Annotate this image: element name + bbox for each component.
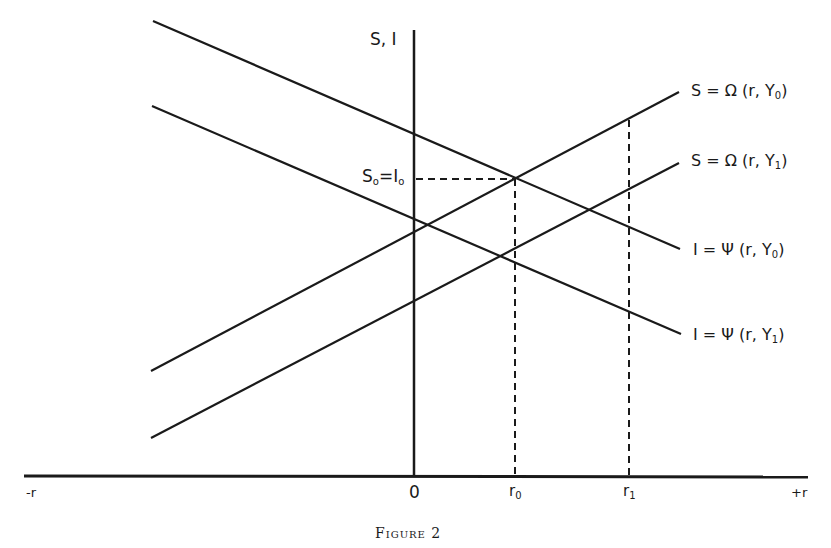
x-axis-positive-label: +r bbox=[791, 486, 807, 499]
saving-curve-y0-label: S = Ω (r, Y0) bbox=[691, 83, 787, 101]
r1-label: r1 bbox=[623, 484, 636, 501]
y-axis-label: S, I bbox=[370, 31, 397, 48]
x-axis bbox=[24, 476, 808, 477]
r0-label: r0 bbox=[509, 484, 522, 501]
origin-label: 0 bbox=[409, 484, 420, 501]
saving-curve-y1-label: S = Ω (r, Y1) bbox=[691, 153, 787, 171]
equilibrium-label: So=Io bbox=[362, 168, 404, 187]
investment-curve-y0 bbox=[153, 21, 680, 249]
x-axis-negative-label: -r bbox=[26, 486, 36, 499]
investment-curve-y0-label: I = Ψ (r, Y0) bbox=[693, 242, 784, 260]
investment-curve-y1-label: I = Ψ (r, Y1) bbox=[693, 327, 784, 345]
figure-caption: Figure 2 bbox=[375, 525, 441, 541]
